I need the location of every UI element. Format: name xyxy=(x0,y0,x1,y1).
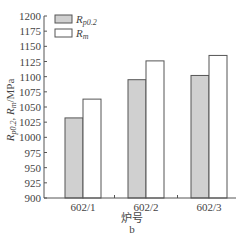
y-tick-label: 1100 xyxy=(19,71,41,83)
y-tick-label: 1025 xyxy=(19,116,42,128)
bar-R_p02-602-2 xyxy=(128,80,146,198)
y-tick-label: 1075 xyxy=(19,86,42,98)
y-tick-label: 900 xyxy=(25,192,42,204)
y-tick-label: 1175 xyxy=(19,25,41,37)
x-tick-label: 602/3 xyxy=(196,201,222,213)
y-tick-label: 1125 xyxy=(19,56,41,68)
bar-chart: 9009259509751000102510501075110011251150… xyxy=(0,0,238,235)
bar-R_p02-602-1 xyxy=(65,118,83,198)
bar-R_p02-602-3 xyxy=(191,75,209,198)
bar-series xyxy=(65,55,227,198)
legend-swatch xyxy=(55,29,72,37)
y-tick-label: 1150 xyxy=(19,40,41,52)
y-tick-label: 925 xyxy=(25,177,42,189)
legend: Rp0.2Rm xyxy=(55,13,97,41)
y-tick-label: 1200 xyxy=(19,10,42,22)
y-tick-label: 1000 xyxy=(19,131,42,143)
y-tick-label: 1050 xyxy=(19,101,42,113)
bar-R_m-602-3 xyxy=(209,55,227,198)
y-tick-label: 975 xyxy=(25,147,42,159)
legend-swatch xyxy=(55,15,72,23)
y-tick-label: 950 xyxy=(25,162,42,174)
y-axis-label: Rp0.2, Rm/MPa xyxy=(4,79,18,143)
panel-label: b xyxy=(129,223,135,235)
y-axis-ticks: 9009259509751000102510501075110011251150… xyxy=(19,10,47,204)
legend-label: Rp0.2 xyxy=(75,13,97,27)
bar-R_m-602-1 xyxy=(83,99,101,198)
bar-R_m-602-2 xyxy=(146,61,164,198)
legend-label: Rm xyxy=(75,27,89,41)
x-tick-label: 602/1 xyxy=(70,201,95,213)
